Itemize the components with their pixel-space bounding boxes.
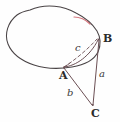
geometry-figure: A B C a b c <box>0 0 120 122</box>
vertex-point-B <box>98 39 100 41</box>
arc-AB <box>64 40 98 67</box>
side-label-a: a <box>99 69 105 79</box>
vertex-label-B: B <box>103 33 112 44</box>
vertex-label-C: C <box>91 108 100 119</box>
side-label-b: b <box>67 88 73 98</box>
vertex-label-A: A <box>59 70 68 81</box>
side-label-c: c <box>75 43 81 53</box>
closed-curve-outline <box>6 6 100 68</box>
figure-canvas <box>0 0 120 122</box>
vertex-point-C <box>92 104 94 106</box>
